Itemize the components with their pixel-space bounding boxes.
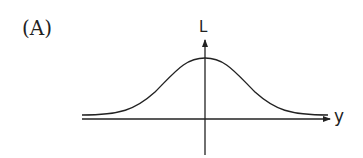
diagram-canvas	[0, 0, 363, 158]
